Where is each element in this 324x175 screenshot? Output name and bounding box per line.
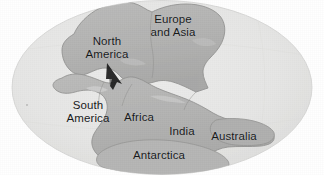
map-label-north-america: North America — [86, 35, 129, 61]
map-label-africa: Africa — [124, 111, 154, 124]
map-label-india: India — [169, 125, 194, 138]
map-label-layer: North America Europe and Asia South Amer… — [0, 0, 324, 175]
map-label-europe-and-asia: Europe and Asia — [151, 13, 196, 39]
map-label-antarctica: Antarctica — [133, 149, 185, 162]
pangaea-figure: North America Europe and Asia South Amer… — [0, 0, 324, 175]
map-label-south-america: South America — [67, 99, 110, 125]
map-label-australia: Australia — [211, 130, 257, 143]
